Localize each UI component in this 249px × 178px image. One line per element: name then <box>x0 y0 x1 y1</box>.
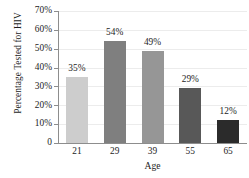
x-axis-tick-labels: 2129395565 <box>58 146 247 160</box>
y-axis-tick-mark <box>54 124 58 125</box>
x-axis-tick-label: 65 <box>208 146 248 157</box>
y-axis-tick-label: 60% <box>22 25 52 34</box>
bar-value-label: 49% <box>133 38 173 47</box>
bar <box>179 88 201 143</box>
bar <box>217 120 239 143</box>
bar-chart: Percentage Tested for HIV 70%60%50%40%30… <box>0 0 249 178</box>
bar-value-label: 12% <box>208 107 248 116</box>
bar-value-label: 35% <box>57 64 97 73</box>
y-axis-tick-mark <box>54 143 58 144</box>
x-axis-title: Age <box>58 160 247 171</box>
x-axis-tick-label: 29 <box>95 146 135 157</box>
x-axis-tick-label: 55 <box>170 146 210 157</box>
y-axis-tick-mark <box>54 105 58 106</box>
y-axis-tick-mark <box>54 30 58 31</box>
y-axis-tick-label: 0 <box>22 138 52 147</box>
bar-value-label: 54% <box>95 28 135 37</box>
y-axis-tick-label: 50% <box>22 44 52 53</box>
bar <box>66 77 88 143</box>
y-axis-tick-label: 30% <box>22 82 52 91</box>
x-axis-tick-label: 21 <box>57 146 97 157</box>
y-axis-tick-label: 20% <box>22 101 52 110</box>
y-axis-tick-label: 70% <box>22 6 52 15</box>
bars-layer: 35%54%49%29%12% <box>58 11 247 143</box>
y-axis-tick-mark <box>54 68 58 69</box>
y-axis-tick-mark <box>54 11 58 12</box>
y-axis-tick-label: 40% <box>22 63 52 72</box>
y-axis-tick-mark <box>54 49 58 50</box>
y-axis-tick-labels: 70%60%50%40%30%20%10%0 <box>22 0 52 178</box>
bar-value-label: 29% <box>170 75 210 84</box>
y-axis-tick-label: 10% <box>22 119 52 128</box>
bar <box>142 51 164 143</box>
x-axis-line <box>58 143 247 144</box>
x-axis-tick-label: 39 <box>133 146 173 157</box>
bar <box>104 41 126 143</box>
y-axis-tick-mark <box>54 86 58 87</box>
